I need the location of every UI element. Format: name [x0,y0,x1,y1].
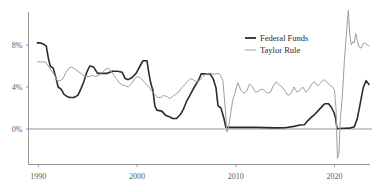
interest-rate-line-chart: 0%4%8%1990200020102020 Federal FundsTayl… [0,0,378,192]
x-tick-label: 2000 [129,172,145,181]
x-tick-label: 1990 [30,172,46,181]
x-tick-label: 2020 [326,172,342,181]
y-tick-label: 0% [12,125,23,134]
x-tick-label: 2010 [228,172,244,181]
chart-container: 0%4%8%1990200020102020 Federal FundsTayl… [0,0,378,192]
y-tick-label: 4% [12,83,23,92]
legend-label-federal-funds: Federal Funds [260,33,308,43]
y-tick-label: 8% [12,41,23,50]
legend-label-taylor-rule: Taylor Rule [260,45,300,55]
